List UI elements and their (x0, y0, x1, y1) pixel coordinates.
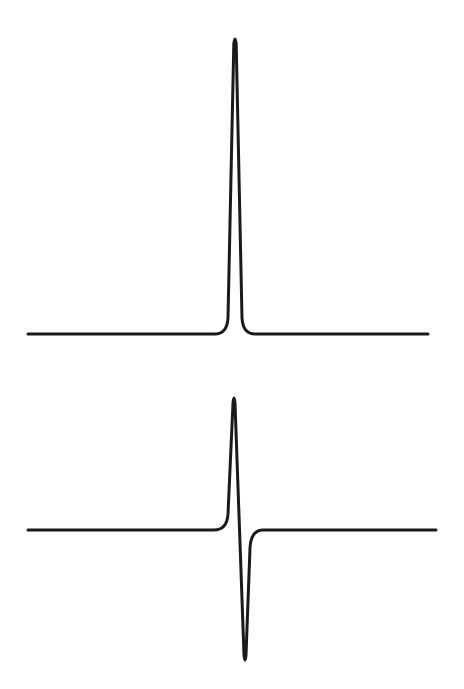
derivative-line-trace (28, 398, 436, 660)
line-shape-figure (0, 0, 464, 689)
absorption-line-trace (28, 39, 428, 334)
